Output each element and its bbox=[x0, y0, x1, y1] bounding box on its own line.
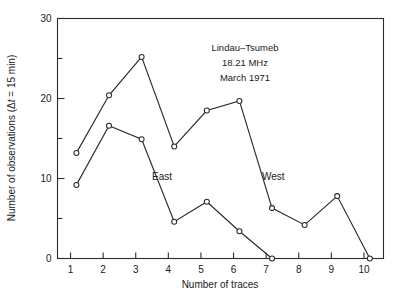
x-tick-label: 7 bbox=[263, 264, 269, 275]
chart-figure: 0102030 12345678910 Lindau–Tsumeb 18.21 … bbox=[0, 0, 399, 307]
annotation-station-pair: Lindau–Tsumeb bbox=[211, 42, 278, 53]
data-point-east-1 bbox=[74, 182, 79, 187]
west-series-label: West bbox=[262, 171, 285, 182]
data-point-west-8 bbox=[302, 222, 307, 227]
x-axis-title: Number of traces bbox=[182, 279, 259, 290]
data-point-east-4 bbox=[172, 219, 177, 224]
data-point-west-5 bbox=[204, 108, 209, 113]
y-axis-ticks: 0102030 bbox=[40, 13, 64, 264]
data-point-west-10 bbox=[367, 256, 372, 261]
series-line-west bbox=[76, 57, 369, 259]
x-tick-label: 2 bbox=[100, 264, 106, 275]
data-point-west-6 bbox=[237, 98, 242, 103]
y-axis-title-tail: = 15 min) bbox=[6, 55, 17, 100]
x-axis-ticks: 12345678910 bbox=[68, 253, 370, 275]
data-point-west-3 bbox=[139, 54, 144, 59]
east-series-label: East bbox=[152, 171, 172, 182]
x-tick-label: 5 bbox=[198, 264, 204, 275]
annotation-date: March 1971 bbox=[220, 72, 270, 83]
data-point-east-7 bbox=[270, 256, 275, 261]
x-tick-label: 8 bbox=[296, 264, 302, 275]
data-point-east-6 bbox=[237, 229, 242, 234]
y-tick-label: 30 bbox=[40, 13, 52, 24]
x-tick-label: 1 bbox=[68, 264, 74, 275]
chart-plot-area: 0102030 12345678910 Lindau–Tsumeb 18.21 … bbox=[0, 0, 399, 307]
data-series-layer bbox=[74, 54, 372, 261]
y-tick-label: 0 bbox=[46, 253, 52, 264]
x-tick-label: 6 bbox=[231, 264, 237, 275]
y-axis-title: Number of observations (Δt = 15 min) bbox=[6, 55, 17, 222]
annotation-frequency: 18.21 MHz bbox=[222, 57, 268, 68]
data-point-west-9 bbox=[335, 194, 340, 199]
y-tick-label: 20 bbox=[40, 93, 52, 104]
y-axis-title-main: Number of observations ( bbox=[6, 108, 17, 221]
data-point-east-3 bbox=[139, 137, 144, 142]
data-point-west-1 bbox=[74, 150, 79, 155]
x-tick-label: 10 bbox=[358, 264, 370, 275]
x-tick-label: 3 bbox=[133, 264, 139, 275]
data-point-west-7 bbox=[270, 206, 275, 211]
data-point-east-5 bbox=[204, 199, 209, 204]
x-tick-label: 9 bbox=[329, 264, 335, 275]
y-tick-label: 10 bbox=[40, 173, 52, 184]
axes-frame bbox=[58, 19, 384, 259]
data-point-east-2 bbox=[107, 123, 112, 128]
x-tick-label: 4 bbox=[166, 264, 172, 275]
data-point-west-2 bbox=[107, 93, 112, 98]
data-point-west-4 bbox=[172, 144, 177, 149]
